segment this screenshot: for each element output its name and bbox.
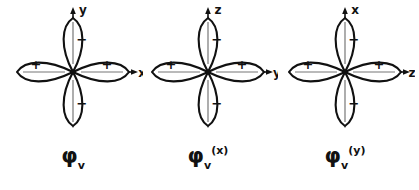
caption-subscript: v bbox=[204, 159, 211, 172]
orbital-diagram-svg: + + − − y x bbox=[3, 2, 143, 138]
lobe-sign-right: + bbox=[237, 57, 248, 72]
caption-symbol: φ bbox=[61, 144, 77, 168]
panel-caption: φv(x) bbox=[138, 138, 278, 188]
lobe-sign-top: − bbox=[349, 32, 360, 47]
caption-subscript: v bbox=[78, 159, 85, 172]
lobe-sign-right: + bbox=[102, 57, 113, 72]
lobe-sign-right: + bbox=[374, 57, 385, 72]
orbital-diagram-svg: + + − − x z bbox=[275, 2, 415, 138]
panel-caption: φv(y) bbox=[275, 138, 415, 188]
panel-caption: φv bbox=[3, 138, 143, 188]
orbital-figure: + + − − y x φv bbox=[0, 0, 419, 190]
horizontal-axis-label: z bbox=[409, 66, 415, 80]
lobe-sign-left: + bbox=[303, 57, 314, 72]
orbital-panel-phi-v-x: + + − − z y φv(x) bbox=[138, 0, 278, 190]
orbital-diagram-svg: + + − − z y bbox=[138, 2, 278, 138]
lobe-sign-left: + bbox=[31, 57, 42, 72]
orbital-panel-phi-v-y: + + − − x z φv(y) bbox=[275, 0, 415, 190]
caption-symbol: φ bbox=[188, 144, 204, 168]
origin-dot bbox=[342, 69, 347, 74]
orbital-panel-phi-v: + + − − y x φv bbox=[3, 0, 143, 190]
vertical-axis-label: y bbox=[79, 3, 87, 17]
lobe-sign-bottom: − bbox=[77, 96, 88, 111]
vertical-axis-label: x bbox=[351, 3, 359, 17]
lobe-sign-bottom: − bbox=[212, 96, 223, 111]
lobe-sign-top: − bbox=[77, 32, 88, 47]
caption-subscript: v bbox=[341, 159, 348, 172]
origin-dot bbox=[205, 69, 210, 74]
lobe-sign-top: − bbox=[212, 32, 223, 47]
origin-dot bbox=[70, 69, 75, 74]
caption-superscript: (x) bbox=[211, 144, 228, 157]
caption-superscript: (y) bbox=[348, 144, 365, 157]
lobe-sign-bottom: − bbox=[349, 96, 360, 111]
vertical-axis-label: z bbox=[215, 3, 222, 17]
lobe-sign-left: + bbox=[166, 57, 177, 72]
caption-symbol: φ bbox=[325, 144, 341, 168]
